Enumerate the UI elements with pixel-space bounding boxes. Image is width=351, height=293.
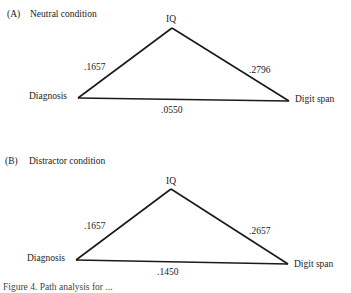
node-a-diagnosis: Diagnosis — [29, 92, 67, 102]
node-b-diagnosis: Diagnosis — [27, 254, 65, 264]
edge-b-iq-digitspan — [171, 189, 288, 264]
path-b-iq-digitspan: .2657 — [249, 227, 270, 237]
node-b-digitspan: Digit span — [294, 260, 333, 270]
path-a-iq-digitspan: .2796 — [249, 66, 270, 76]
path-a-diagnosis-iq: .1657 — [84, 63, 105, 73]
edge-b-diagnosis-digitspan — [76, 260, 288, 264]
node-b-iq: IQ — [166, 177, 176, 187]
edge-a-iq-digitspan — [172, 28, 289, 101]
path-a-diagnosis-digitspan: .0550 — [161, 106, 182, 116]
panel-b-title: Distractor condition — [29, 157, 105, 167]
panel-a-title: Neutral condition — [30, 10, 97, 20]
node-a-digitspan: Digit span — [295, 95, 334, 105]
edge-a-diagnosis-digitspan — [78, 98, 289, 101]
path-b-diagnosis-digitspan: .1450 — [157, 268, 178, 278]
node-a-iq: IQ — [166, 15, 176, 25]
panel-b-label: (B) — [5, 157, 18, 167]
path-b-diagnosis-iq: .1657 — [84, 222, 105, 232]
figure-caption: Figure 4. Path analysis for ... — [3, 283, 113, 293]
panel-a-label: (A) — [7, 10, 20, 20]
